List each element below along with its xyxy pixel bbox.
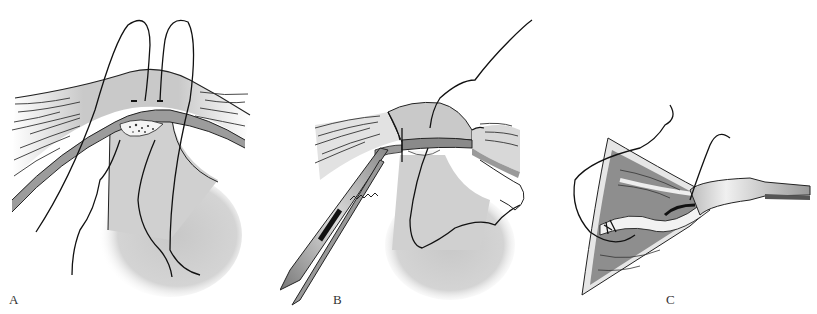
panel-b: B — [280, 0, 560, 314]
panel-b-illustration — [280, 0, 560, 314]
panel-c: C — [560, 0, 817, 314]
panel-label-b: B — [333, 292, 342, 308]
panel-label-a: A — [9, 292, 18, 308]
panel-a-illustration — [0, 0, 270, 314]
panel-c-illustration — [560, 0, 817, 314]
panel-a: A — [0, 0, 270, 314]
panel-label-c: C — [666, 292, 675, 308]
